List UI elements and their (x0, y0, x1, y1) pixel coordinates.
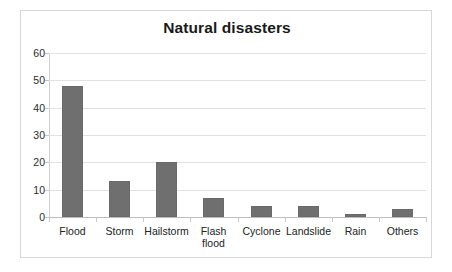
x-axis-category-label: Landslide (285, 225, 332, 237)
bar-flash-flood (203, 198, 224, 217)
x-axis-tick-mark (426, 217, 427, 222)
x-axis-category-label: Storm (96, 225, 143, 237)
gridline (49, 162, 426, 163)
gridline (49, 135, 426, 136)
gridline (49, 53, 426, 54)
y-axis-tick-label: 50 (23, 75, 45, 86)
y-axis-tick-mark (45, 80, 49, 81)
bar-others (392, 209, 413, 217)
x-axis-category-label: Flood (49, 225, 96, 237)
y-axis-tick-label: 60 (23, 48, 45, 59)
gridline (49, 190, 426, 191)
chart-frame: Natural disasters 0102030405060 FloodSto… (20, 10, 432, 258)
x-axis-tick-mark (238, 217, 239, 222)
plot-area (49, 53, 426, 217)
y-axis-tick-mark (45, 53, 49, 54)
y-axis-labels: 0102030405060 (21, 11, 45, 259)
gridline (49, 108, 426, 109)
gridline (49, 80, 426, 81)
x-axis-category-label: Others (379, 225, 426, 237)
bar-hailstorm (156, 162, 177, 217)
x-axis-tick-mark (379, 217, 380, 222)
x-axis-category-label: Flash flood (190, 225, 237, 249)
y-axis-tick-label: 0 (23, 212, 45, 223)
y-axis-tick-label: 10 (23, 185, 45, 196)
x-axis-tick-mark (49, 217, 50, 222)
x-axis-category-label: Cyclone (238, 225, 285, 237)
chart-title: Natural disasters (21, 19, 433, 37)
x-axis-tick-mark (285, 217, 286, 222)
x-axis-category-label: Hailstorm (143, 225, 190, 237)
bar-cyclone (251, 206, 272, 217)
x-axis-category-label: Rain (332, 225, 379, 237)
x-axis-tick-mark (143, 217, 144, 222)
x-axis-tick-mark (96, 217, 97, 222)
y-axis-tick-label: 30 (23, 130, 45, 141)
y-axis-tick-mark (45, 135, 49, 136)
bar-landslide (298, 206, 319, 217)
bar-rain (345, 214, 366, 217)
y-axis-tick-mark (45, 190, 49, 191)
x-axis-tick-mark (332, 217, 333, 222)
y-axis-tick-mark (45, 162, 49, 163)
y-axis-tick-label: 20 (23, 157, 45, 168)
bar-storm (109, 181, 130, 217)
bar-flood (62, 86, 83, 217)
y-axis-tick-mark (45, 108, 49, 109)
x-axis-tick-mark (190, 217, 191, 222)
y-axis-tick-label: 40 (23, 103, 45, 114)
